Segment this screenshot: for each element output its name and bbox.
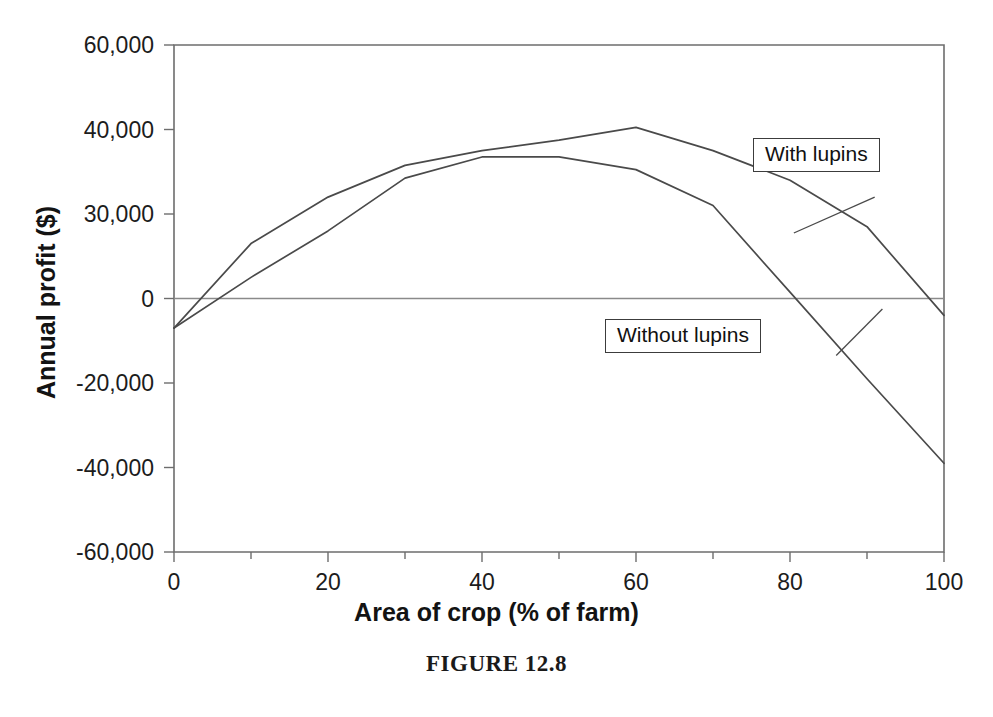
axis-ticks (164, 45, 944, 562)
y-tick-label: -60,000 (76, 539, 154, 565)
x-tick-label: 100 (925, 569, 963, 595)
callout-without-lupins: Without lupins (605, 319, 761, 353)
annotation-leader-line (794, 197, 875, 233)
annotation-leader-line (836, 309, 882, 355)
x-tick-label: 0 (168, 569, 181, 595)
x-tick-label: 20 (315, 569, 341, 595)
y-tick-label: 30,000 (84, 201, 154, 227)
y-tick-label: 0 (141, 286, 154, 312)
y-axis-tick-labels: 60,00040,00030,0000-20,000-40,000-60,000 (76, 32, 154, 565)
y-tick-label: -40,000 (76, 455, 154, 481)
x-tick-label: 80 (777, 569, 803, 595)
y-tick-label: 60,000 (84, 32, 154, 58)
figure-caption: FIGURE 12.8 (0, 651, 993, 677)
data-series-lines (174, 127, 944, 463)
y-axis-title: Annual profit ($) (32, 153, 61, 453)
y-tick-label: 40,000 (84, 117, 154, 143)
annotation-leader-lines (794, 197, 883, 355)
figure-container: 60,00040,00030,0000-20,000-40,000-60,000… (0, 0, 993, 717)
line-chart: 60,00040,00030,0000-20,000-40,000-60,000… (0, 0, 993, 660)
y-tick-label: -20,000 (76, 370, 154, 396)
x-axis-title: Area of crop (% of farm) (0, 598, 993, 627)
x-tick-label: 40 (469, 569, 495, 595)
callout-with-lupins: With lupins (753, 138, 880, 172)
x-tick-label: 60 (623, 569, 649, 595)
x-axis-tick-labels: 020406080100 (168, 569, 964, 595)
